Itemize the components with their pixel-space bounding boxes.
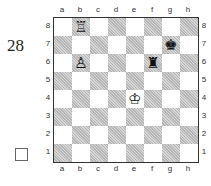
square-d6[interactable] <box>108 54 126 72</box>
left-rank-label-2: 2 <box>44 125 52 143</box>
bottom-file-label-h: h <box>179 164 197 173</box>
square-e8[interactable] <box>126 18 144 36</box>
square-f3[interactable] <box>144 108 162 126</box>
square-e3[interactable] <box>126 108 144 126</box>
left-rank-label-4: 4 <box>44 89 52 107</box>
square-c1[interactable] <box>90 144 108 162</box>
square-b7[interactable] <box>72 36 90 54</box>
puzzle-number: 28 <box>7 36 24 56</box>
square-f2[interactable] <box>144 126 162 144</box>
square-f1[interactable] <box>144 144 162 162</box>
square-e5[interactable] <box>126 72 144 90</box>
square-c3[interactable] <box>90 108 108 126</box>
square-d8[interactable] <box>108 18 126 36</box>
square-g8[interactable] <box>162 18 180 36</box>
square-b4[interactable] <box>72 90 90 108</box>
square-f5[interactable] <box>144 72 162 90</box>
square-h8[interactable] <box>180 18 198 36</box>
square-e2[interactable] <box>126 126 144 144</box>
square-g5[interactable] <box>162 72 180 90</box>
square-a3[interactable] <box>54 108 72 126</box>
square-b2[interactable] <box>72 126 90 144</box>
square-f8[interactable] <box>144 18 162 36</box>
square-b5[interactable] <box>72 72 90 90</box>
left-rank-label-5: 5 <box>44 71 52 89</box>
right-rank-label-5: 5 <box>200 71 208 89</box>
top-file-label-a: a <box>53 5 71 14</box>
square-a2[interactable] <box>54 126 72 144</box>
square-g6[interactable] <box>162 54 180 72</box>
right-rank-label-4: 4 <box>200 89 208 107</box>
bottom-file-label-e: e <box>125 164 143 173</box>
square-a5[interactable] <box>54 72 72 90</box>
square-e1[interactable] <box>126 144 144 162</box>
white-rook-icon[interactable]: ♖ <box>72 18 90 36</box>
white-pawn-icon[interactable]: ♙ <box>72 54 90 72</box>
chess-board: ♖♙♔♚♜ <box>53 17 199 163</box>
square-h1[interactable] <box>180 144 198 162</box>
square-c6[interactable] <box>90 54 108 72</box>
square-c2[interactable] <box>90 126 108 144</box>
square-h4[interactable] <box>180 90 198 108</box>
left-rank-label-3: 3 <box>44 107 52 125</box>
black-rook-icon[interactable]: ♜ <box>144 54 162 72</box>
square-g4[interactable] <box>162 90 180 108</box>
square-a4[interactable] <box>54 90 72 108</box>
square-a8[interactable] <box>54 18 72 36</box>
left-rank-label-7: 7 <box>44 35 52 53</box>
top-file-label-c: c <box>89 5 107 14</box>
square-d2[interactable] <box>108 126 126 144</box>
top-file-label-e: e <box>125 5 143 14</box>
square-f4[interactable] <box>144 90 162 108</box>
white-king-icon[interactable]: ♔ <box>126 90 144 108</box>
square-e6[interactable] <box>126 54 144 72</box>
black-king-icon[interactable]: ♚ <box>162 36 180 54</box>
square-e7[interactable] <box>126 36 144 54</box>
left-rank-label-6: 6 <box>44 53 52 71</box>
square-d4[interactable] <box>108 90 126 108</box>
square-c8[interactable] <box>90 18 108 36</box>
left-rank-label-8: 8 <box>44 17 52 35</box>
bottom-file-label-f: f <box>143 164 161 173</box>
right-rank-label-7: 7 <box>200 35 208 53</box>
top-file-label-d: d <box>107 5 125 14</box>
square-a7[interactable] <box>54 36 72 54</box>
square-a6[interactable] <box>54 54 72 72</box>
square-c5[interactable] <box>90 72 108 90</box>
top-file-label-h: h <box>179 5 197 14</box>
right-rank-label-6: 6 <box>200 53 208 71</box>
square-d5[interactable] <box>108 72 126 90</box>
square-g1[interactable] <box>162 144 180 162</box>
square-b1[interactable] <box>72 144 90 162</box>
top-file-label-f: f <box>143 5 161 14</box>
square-d3[interactable] <box>108 108 126 126</box>
bottom-file-label-d: d <box>107 164 125 173</box>
square-b3[interactable] <box>72 108 90 126</box>
bottom-file-label-c: c <box>89 164 107 173</box>
square-g2[interactable] <box>162 126 180 144</box>
right-rank-label-2: 2 <box>200 125 208 143</box>
square-c4[interactable] <box>90 90 108 108</box>
right-rank-label-3: 3 <box>200 107 208 125</box>
bottom-file-label-b: b <box>71 164 89 173</box>
square-h5[interactable] <box>180 72 198 90</box>
square-a1[interactable] <box>54 144 72 162</box>
square-h7[interactable] <box>180 36 198 54</box>
square-d7[interactable] <box>108 36 126 54</box>
square-g3[interactable] <box>162 108 180 126</box>
left-rank-label-1: 1 <box>44 143 52 161</box>
square-f7[interactable] <box>144 36 162 54</box>
top-file-label-b: b <box>71 5 89 14</box>
bottom-file-label-g: g <box>161 164 179 173</box>
top-file-label-g: g <box>161 5 179 14</box>
square-h3[interactable] <box>180 108 198 126</box>
square-c7[interactable] <box>90 36 108 54</box>
square-h6[interactable] <box>180 54 198 72</box>
right-rank-label-1: 1 <box>200 143 208 161</box>
square-d1[interactable] <box>108 144 126 162</box>
right-rank-label-8: 8 <box>200 17 208 35</box>
solved-checkbox[interactable] <box>15 148 28 161</box>
square-h2[interactable] <box>180 126 198 144</box>
bottom-file-label-a: a <box>53 164 71 173</box>
